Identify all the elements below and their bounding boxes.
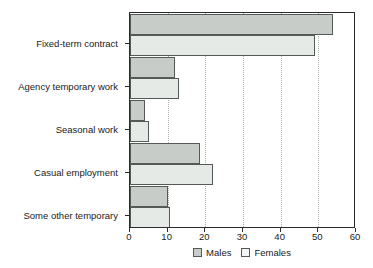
bar-males-1[interactable]	[130, 57, 175, 78]
legend-item-males[interactable]: Males	[193, 247, 231, 258]
plot-area	[129, 12, 355, 228]
y-axis-label-3: Casual employment	[34, 167, 118, 178]
bar-females-0[interactable]	[130, 35, 315, 56]
x-axis-tick-label-10: 10	[161, 231, 172, 243]
bar-group	[130, 14, 354, 56]
bar-males-2[interactable]	[130, 100, 145, 121]
bar-males-4[interactable]	[130, 186, 168, 207]
y-axis-label-4: Some other temporary	[23, 210, 118, 221]
bar-group	[130, 143, 354, 185]
bar-chart: Fixed-term contract Agency temporary wor…	[0, 0, 373, 268]
x-axis-tick-label-20: 20	[199, 231, 210, 243]
legend-item-females[interactable]: Females	[241, 247, 290, 258]
legend-label-males: Males	[206, 247, 231, 258]
y-axis-label-1: Agency temporary work	[18, 81, 118, 92]
x-axis-tick-label-30: 30	[237, 231, 248, 243]
chart-legend: Males Females	[129, 247, 355, 258]
legend-label-females: Females	[254, 247, 290, 258]
females-swatch-icon	[241, 248, 250, 257]
x-axis-tick-label-60: 60	[350, 231, 361, 243]
y-axis-category-labels: Fixed-term contract Agency temporary wor…	[0, 12, 124, 228]
x-axis-tick-label-50: 50	[312, 231, 323, 243]
y-axis-label-0: Fixed-term contract	[36, 38, 118, 49]
bar-females-1[interactable]	[130, 78, 179, 99]
bar-males-0[interactable]	[130, 14, 333, 35]
bar-group	[130, 186, 354, 228]
x-axis-tick-label-0: 0	[126, 231, 131, 243]
bar-females-4[interactable]	[130, 207, 170, 228]
x-axis-tick-labels: 0102030405060	[129, 231, 355, 245]
bar-females-2[interactable]	[130, 121, 149, 142]
bar-group	[130, 100, 354, 142]
x-axis-tick-label-40: 40	[274, 231, 285, 243]
bar-males-3[interactable]	[130, 143, 200, 164]
bars-layer	[130, 13, 354, 227]
males-swatch-icon	[193, 248, 202, 257]
bar-group	[130, 57, 354, 99]
y-axis-label-2: Seasonal work	[56, 124, 118, 135]
bar-females-3[interactable]	[130, 164, 213, 185]
